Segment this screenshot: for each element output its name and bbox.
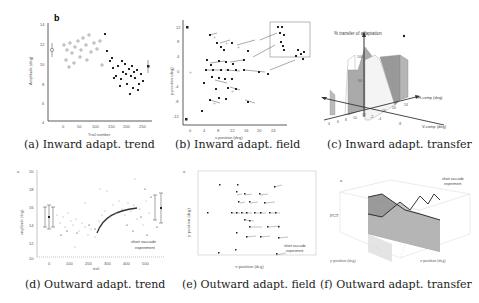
- svg-text:+: +: [237, 44, 240, 50]
- svg-text:8: 8: [217, 128, 220, 133]
- svg-text:+: +: [189, 69, 192, 75]
- panel-a-xlabel: Trial number: [88, 132, 110, 137]
- svg-text:a: a: [340, 178, 343, 183]
- svg-text:400: 400: [123, 261, 130, 266]
- panel-f-chart: a PGT y-position (deg) x-position (deg) …: [330, 172, 479, 267]
- panel-a-chart: b 14 12 10 8 6 4 0 50 100 150 200 250 Am…: [20, 5, 160, 130]
- caption-a: (a) Inward adapt. trend: [24, 138, 155, 151]
- svg-text:50: 50: [358, 79, 362, 83]
- svg-text:24: 24: [271, 128, 276, 133]
- svg-text:12: 12: [176, 25, 181, 30]
- svg-text:200: 200: [85, 261, 92, 266]
- svg-text:0: 0: [62, 124, 65, 129]
- svg-text:500: 500: [142, 261, 149, 266]
- svg-text:6: 6: [337, 120, 339, 124]
- panel-e-chart: a y-position (deg) x-position (deg) shor…: [180, 165, 320, 270]
- svg-text:4: 4: [203, 128, 206, 133]
- svg-text:-8: -8: [398, 122, 401, 126]
- svg-text:4: 4: [42, 120, 45, 125]
- caption-c: (c) Inward adapt. transfer: [327, 138, 472, 151]
- svg-text:14: 14: [40, 22, 45, 27]
- svg-text:16: 16: [382, 109, 386, 113]
- svg-text:a: a: [183, 169, 186, 174]
- svg-text:y-position (deg): y-position (deg): [186, 208, 191, 237]
- svg-text:y-position (deg): y-position (deg): [330, 258, 356, 263]
- svg-text:0: 0: [177, 69, 180, 74]
- caption-d: (d) Outward adapt. trend: [25, 278, 165, 291]
- svg-text:12: 12: [230, 128, 235, 133]
- svg-text:a: a: [17, 169, 20, 174]
- svg-text:0: 0: [48, 261, 51, 266]
- svg-text:% transfer of adaptation: % transfer of adaptation: [334, 31, 382, 36]
- svg-text:x-position (deg): x-position (deg): [420, 258, 446, 263]
- svg-text:6: 6: [42, 101, 45, 106]
- svg-text:amplitude (deg): amplitude (deg): [19, 209, 24, 235]
- svg-text:4: 4: [328, 122, 330, 126]
- svg-text:+: +: [213, 34, 216, 40]
- svg-text:-4: -4: [175, 84, 179, 89]
- svg-text:-4: -4: [378, 117, 381, 121]
- svg-text:experiment: experiment: [444, 182, 461, 186]
- svg-text:experiment: experiment: [135, 245, 156, 250]
- panel-b-chart: y-position (deg) 12 8 4 0 -4 -8 -12 0 4 …: [165, 15, 320, 140]
- svg-text:y-position (deg): y-position (deg): [169, 67, 174, 95]
- svg-text:Amplitude (deg): Amplitude (deg): [28, 56, 33, 85]
- caption-b: (b) Inward adapt. field: [175, 138, 300, 151]
- svg-text:8: 8: [177, 39, 180, 44]
- svg-text:200: 200: [123, 124, 130, 129]
- svg-text:short saccade: short saccade: [284, 244, 306, 248]
- svg-text:12: 12: [40, 42, 45, 47]
- svg-text:4: 4: [177, 54, 180, 59]
- svg-text:H-comp (deg): H-comp (deg): [418, 95, 443, 100]
- panel-c-chart: % transfer of adaptation 100 50 H-comp (…: [320, 25, 479, 135]
- svg-text:8: 8: [42, 82, 45, 87]
- caption-f: (f) Outward adapt. transfer: [320, 278, 472, 291]
- svg-text:short saccade: short saccade: [131, 239, 157, 244]
- svg-text:V-comp (deg): V-comp (deg): [422, 124, 447, 129]
- svg-text:8: 8: [345, 118, 347, 122]
- svg-text:100: 100: [92, 124, 99, 129]
- svg-text:experiment: experiment: [286, 249, 303, 253]
- svg-text:10: 10: [40, 62, 45, 67]
- svg-text:12: 12: [362, 113, 366, 117]
- svg-text:+: +: [225, 40, 228, 46]
- svg-text:-8: -8: [175, 99, 179, 104]
- svg-text:100: 100: [357, 55, 363, 59]
- svg-text:18: 18: [29, 187, 34, 192]
- svg-text:-12: -12: [173, 114, 180, 119]
- svg-text:50: 50: [77, 124, 82, 129]
- svg-text:0: 0: [189, 128, 192, 133]
- svg-text:PGT: PGT: [330, 213, 339, 218]
- svg-text:20: 20: [29, 169, 34, 174]
- svg-text:100: 100: [66, 261, 73, 266]
- svg-text:+: +: [213, 100, 216, 106]
- svg-text:16: 16: [29, 205, 34, 210]
- svg-text:150: 150: [108, 124, 115, 129]
- svg-text:10: 10: [353, 116, 357, 120]
- panel-d-chart: a 20 18 16 14 12 10 0 100 200 300 400 50…: [15, 165, 165, 270]
- svg-text:14: 14: [29, 223, 34, 228]
- svg-text:250: 250: [139, 124, 146, 129]
- svg-text:12: 12: [29, 241, 34, 246]
- svg-text:24: 24: [404, 103, 408, 107]
- svg-text:-2: -2: [370, 115, 373, 119]
- svg-text:20: 20: [392, 106, 396, 110]
- panel-a-letter: b: [54, 13, 60, 23]
- caption-e: (e) Outward adapt. field: [182, 278, 316, 291]
- svg-text:short saccade: short saccade: [442, 177, 464, 181]
- svg-text:+: +: [231, 88, 234, 94]
- svg-text:x-position (deg): x-position (deg): [235, 264, 264, 269]
- svg-text:20: 20: [257, 128, 262, 133]
- svg-text:trial: trial: [93, 266, 100, 270]
- svg-text:10: 10: [29, 256, 34, 261]
- svg-text:300: 300: [104, 261, 111, 266]
- svg-text:16: 16: [244, 128, 249, 133]
